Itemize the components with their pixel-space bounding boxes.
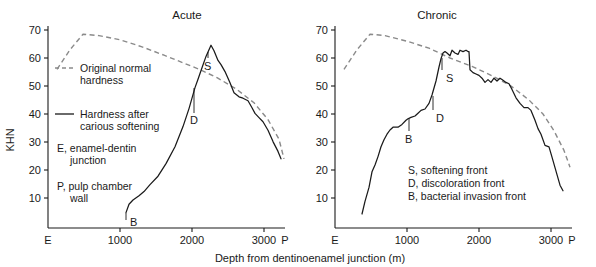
- annotations-acute: E, enamel-dentin junction P, pulp chambe…: [57, 142, 137, 204]
- y-axis-label: KHN: [4, 128, 16, 151]
- y-ticklabel: 50: [316, 80, 328, 92]
- y-ticklabel: 50: [29, 80, 41, 92]
- marker-S-acute: S: [204, 52, 211, 72]
- marker-B-chronic: B: [405, 118, 412, 145]
- annotation-E-line1: E, enamel-dentin: [57, 142, 137, 154]
- x-ticklabel: E: [44, 234, 51, 246]
- x-ticklabel: 1000: [108, 234, 132, 246]
- chart-title-chronic: Chronic: [417, 9, 457, 21]
- y-ticklabel: 10: [316, 192, 328, 204]
- x-ticklabel: 3000: [252, 234, 276, 246]
- panel-acute: Acute 70 60 50 40 30 20 10: [4, 9, 289, 246]
- marker-label-D: D: [190, 114, 198, 126]
- y-ticks-chronic: [331, 30, 335, 198]
- annotation-P-line1: P, pulp chamber: [57, 180, 133, 192]
- y-ticklabel: 30: [29, 136, 41, 148]
- annotation-P-line2: wall: [69, 192, 88, 204]
- marker-label-B: B: [130, 216, 137, 228]
- annotation-B: B, bacterial invasion front: [408, 190, 526, 202]
- x-ticklabel: 2000: [467, 234, 491, 246]
- y-ticklabels-acute: 70 60 50 40 30 20 10: [29, 24, 41, 204]
- y-ticklabel: 30: [316, 136, 328, 148]
- marker-D-acute: D: [190, 88, 198, 126]
- legend-label-softening-line2: carious softening: [80, 120, 160, 132]
- annotation-E-line2: junction: [69, 154, 106, 166]
- marker-S-chronic: S: [442, 58, 453, 84]
- legend-label-original-line2: hardness: [80, 74, 123, 86]
- marker-label-D: D: [436, 112, 444, 124]
- y-ticklabels-chronic: 70 60 50 40 30 20 10: [316, 24, 328, 204]
- x-ticks-chronic: [407, 228, 551, 232]
- marker-label-S: S: [204, 60, 211, 72]
- figure-root: Acute 70 60 50 40 30 20 10: [0, 0, 596, 267]
- annotation-S: S, softening front: [408, 164, 487, 176]
- x-ticklabel: 2000: [180, 234, 204, 246]
- y-ticklabel: 40: [316, 108, 328, 120]
- y-ticklabel: 10: [29, 192, 41, 204]
- y-ticklabel: 60: [29, 52, 41, 64]
- legend-acute: Original normal hardness Hardness after …: [55, 62, 160, 132]
- y-ticklabel: 20: [316, 164, 328, 176]
- marker-label-B: B: [405, 133, 412, 145]
- marker-label-S: S: [446, 72, 453, 84]
- y-ticks-acute: [44, 30, 48, 198]
- x-axis-label: Depth from dentinoenamel junction (m): [215, 252, 405, 264]
- y-ticklabel: 20: [29, 164, 41, 176]
- x-ticklabel: P: [568, 234, 575, 246]
- x-ticklabels-chronic: E 1000 2000 3000 P: [331, 234, 575, 246]
- y-ticklabel: 70: [316, 24, 328, 36]
- panel-chronic: Chronic 70 60 50 40 30 20 10 E: [316, 9, 576, 246]
- annotation-D: D, discoloration front: [408, 177, 504, 189]
- annotations-chronic: S, softening front D, discoloration fron…: [408, 164, 526, 202]
- x-ticks-acute: [120, 228, 264, 232]
- legend-label-original-line1: Original normal: [80, 62, 151, 74]
- y-ticklabel: 40: [29, 108, 41, 120]
- y-ticklabel: 70: [29, 24, 41, 36]
- marker-B-acute: B: [126, 213, 137, 228]
- y-ticklabel: 60: [316, 52, 328, 64]
- x-ticklabel: P: [281, 234, 288, 246]
- x-ticklabel: 1000: [395, 234, 419, 246]
- marker-D-chronic: D: [433, 96, 444, 124]
- x-ticklabel: E: [331, 234, 338, 246]
- x-ticklabel: 3000: [539, 234, 563, 246]
- x-ticklabels-acute: E 1000 2000 3000 P: [44, 234, 288, 246]
- legend-label-softening-line1: Hardness after: [80, 108, 149, 120]
- chart-title-acute: Acute: [172, 9, 201, 21]
- series-original-normal-hardness-acute: [57, 34, 284, 159]
